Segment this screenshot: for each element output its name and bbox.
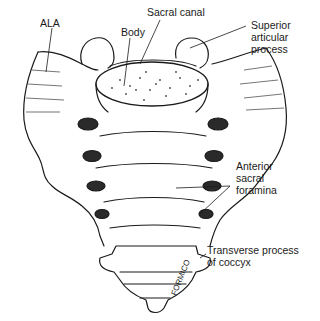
label-sacral-canal: Sacral canal <box>147 6 205 18</box>
right-ala <box>210 48 286 246</box>
left-foramen-2 <box>83 151 101 162</box>
left-superior-articular-process <box>81 38 114 68</box>
right-foramen-2 <box>205 151 223 162</box>
label-transverse-process-coccyx: Transverse process of coccyx <box>207 244 299 268</box>
coccyx <box>100 246 211 313</box>
left-foramen-1 <box>78 118 98 130</box>
label-ala: ALA <box>40 17 60 29</box>
leader-superior-articular-process <box>190 26 246 48</box>
label-superior-articular-process: Superior articular process <box>251 19 291 55</box>
label-body: Body <box>121 26 145 38</box>
left-foramen-3 <box>87 181 105 191</box>
right-foramen-1 <box>208 118 228 130</box>
right-foramen-3 <box>203 181 221 191</box>
right-foramen-4 <box>199 210 213 219</box>
left-ala <box>24 52 104 246</box>
artist-signature: FORMICO <box>170 258 192 296</box>
left-foramen-4 <box>95 210 109 219</box>
label-anterior-sacral-foramina: Anterior sacral foramina <box>236 160 277 196</box>
sacral-body <box>96 62 208 106</box>
leader-ala <box>46 28 52 72</box>
